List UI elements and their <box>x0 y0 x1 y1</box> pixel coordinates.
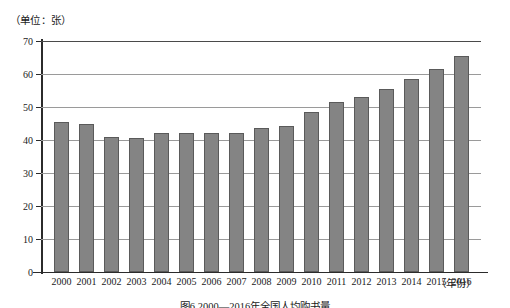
bar <box>54 122 69 272</box>
y-axis-tick-label: 0 <box>3 267 33 278</box>
y-axis-tick-label: 40 <box>3 135 33 146</box>
y-axis-tick-label: 50 <box>3 102 33 113</box>
y-axis-tick <box>36 272 41 273</box>
y-axis-tick-label: 20 <box>3 201 33 212</box>
bar <box>304 112 319 272</box>
y-axis-tick-label: 30 <box>3 168 33 179</box>
y-axis-tick <box>36 173 41 174</box>
y-axis-tick-label: 10 <box>3 234 33 245</box>
bar <box>154 133 169 272</box>
bar-chart-figure: （单位：张） 010203040506070 20002001200220032… <box>0 0 510 308</box>
bar <box>329 102 344 272</box>
plot-area <box>41 41 481 272</box>
y-axis-tick <box>36 239 41 240</box>
bar <box>229 133 244 272</box>
x-axis-unit-label: （年份） <box>436 275 476 290</box>
bar <box>429 69 444 272</box>
bar <box>279 126 294 272</box>
gridline <box>41 74 481 75</box>
y-axis-tick-labels: 010203040506070 <box>0 0 33 308</box>
bar <box>379 89 394 272</box>
figure-caption: 图6 2000—2016年全国人均购书量 <box>0 298 510 308</box>
y-axis-tick-label: 70 <box>3 36 33 47</box>
y-axis-tick <box>36 107 41 108</box>
bar <box>129 138 144 272</box>
y-axis-tick <box>36 41 41 42</box>
y-axis-tick <box>36 74 41 75</box>
y-axis-tick-label: 60 <box>3 69 33 80</box>
gridline <box>41 41 481 42</box>
bar <box>79 124 94 272</box>
bar <box>404 79 419 272</box>
bar <box>354 97 369 272</box>
x-axis-tick-labels: 2000200120022003200420052006200720082009… <box>41 276 481 292</box>
bar <box>204 133 219 272</box>
bar <box>104 137 119 272</box>
bar <box>254 128 269 272</box>
y-axis-tick <box>36 206 41 207</box>
bar <box>454 56 469 272</box>
bar <box>179 133 194 272</box>
y-axis-tick <box>36 140 41 141</box>
